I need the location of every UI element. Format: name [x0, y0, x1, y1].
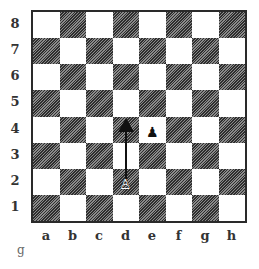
square-f6: [166, 64, 193, 90]
file-label-e: e: [139, 228, 165, 243]
black-pawn-icon: ♟: [139, 119, 166, 145]
square-e2: [139, 169, 166, 195]
square-b3: [60, 143, 87, 169]
square-h1: [219, 195, 246, 221]
square-f4: [166, 117, 193, 143]
square-c6: [86, 64, 113, 90]
square-c4: [86, 117, 113, 143]
square-a3: [33, 143, 60, 169]
square-b1: [60, 195, 87, 221]
square-a7: [33, 38, 60, 64]
square-g4: [192, 117, 219, 143]
square-b8: [60, 12, 87, 38]
square-c5: [86, 90, 113, 116]
square-a2: [33, 169, 60, 195]
square-e6: [139, 64, 166, 90]
square-b4: [60, 117, 87, 143]
file-label-f: f: [166, 228, 192, 243]
square-e7: [139, 38, 166, 64]
move-arrow-head-icon: [118, 118, 134, 132]
square-g2: [192, 169, 219, 195]
rank-label-8: 8: [8, 16, 22, 31]
square-e1: [139, 195, 166, 221]
square-g6: [192, 64, 219, 90]
square-e3: [139, 143, 166, 169]
square-f2: [166, 169, 193, 195]
rank-label-6: 6: [8, 68, 22, 83]
square-d8: [113, 12, 140, 38]
square-b5: [60, 90, 87, 116]
square-a1: [33, 195, 60, 221]
square-d5: [113, 90, 140, 116]
square-a4: [33, 117, 60, 143]
square-g5: [192, 90, 219, 116]
square-a8: [33, 12, 60, 38]
square-b2: [60, 169, 87, 195]
square-b6: [60, 64, 87, 90]
square-d7: [113, 38, 140, 64]
square-g7: [192, 38, 219, 64]
square-a6: [33, 64, 60, 90]
square-a5: [33, 90, 60, 116]
rank-label-2: 2: [8, 173, 22, 188]
square-c2: [86, 169, 113, 195]
rank-label-4: 4: [8, 121, 22, 136]
rank-label-3: 3: [8, 147, 22, 162]
square-e5: [139, 90, 166, 116]
square-g3: [192, 143, 219, 169]
square-d6: [113, 64, 140, 90]
caption: g: [17, 243, 25, 257]
square-h3: [219, 143, 246, 169]
square-c1: [86, 195, 113, 221]
square-h2: [219, 169, 246, 195]
file-label-c: c: [86, 228, 112, 243]
square-h5: [219, 90, 246, 116]
file-label-a: a: [33, 228, 59, 243]
square-h4: [219, 117, 246, 143]
square-e8: [139, 12, 166, 38]
file-label-b: b: [60, 228, 86, 243]
square-f7: [166, 38, 193, 64]
square-h8: [219, 12, 246, 38]
white-pawn-icon: ♙: [113, 171, 140, 197]
square-c7: [86, 38, 113, 64]
square-h7: [219, 38, 246, 64]
square-f3: [166, 143, 193, 169]
file-label-h: h: [219, 228, 245, 243]
square-f5: [166, 90, 193, 116]
square-h6: [219, 64, 246, 90]
square-c8: [86, 12, 113, 38]
square-d1: [113, 195, 140, 221]
rank-label-5: 5: [8, 94, 22, 109]
square-f8: [166, 12, 193, 38]
square-c3: [86, 143, 113, 169]
chess-board: ♙♟: [31, 10, 247, 223]
file-label-g: g: [192, 228, 218, 243]
square-f1: [166, 195, 193, 221]
square-g1: [192, 195, 219, 221]
rank-label-1: 1: [8, 199, 22, 214]
square-g8: [192, 12, 219, 38]
square-b7: [60, 38, 87, 64]
file-label-d: d: [113, 228, 139, 243]
rank-label-7: 7: [8, 42, 22, 57]
